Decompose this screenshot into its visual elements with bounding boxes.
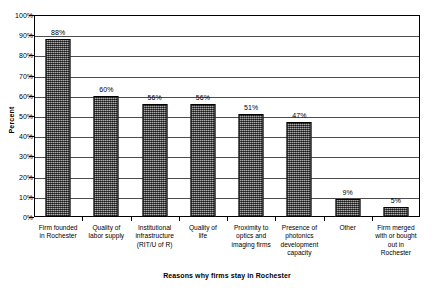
bar-value-label: 51% [244, 104, 258, 112]
x-tick-mark [179, 217, 180, 221]
bar-chart: Percent 0%10%20%30%40%50%60%70%80%90%100… [0, 0, 447, 291]
x-cat-label-line: capacity [275, 249, 323, 257]
bar-slot: 47% [275, 15, 323, 217]
x-cat-label-line: Rochester [372, 249, 420, 257]
x-cat-label-line: Quality of [179, 224, 227, 232]
x-tick-mark [372, 217, 373, 221]
x-tick-mark [82, 217, 83, 221]
bar-value-label: 9% [343, 189, 353, 197]
bar-slot: 5% [372, 15, 420, 217]
x-cat-label-line: Presence of [275, 224, 323, 232]
bar[interactable] [287, 122, 312, 217]
x-cat-label-line: optics and [227, 232, 275, 240]
bar-value-label: 60% [99, 86, 113, 94]
x-cat-label-line: (RIT/U of R) [131, 241, 179, 249]
x-axis-labels: Firm foundedin RochesterQuality oflabor … [34, 224, 420, 270]
x-cat-label: Proximity tooptics andimaging firms [227, 224, 275, 249]
x-cat-label-line: Quality of [82, 224, 130, 232]
bar-slot: 56% [131, 15, 179, 217]
bar[interactable] [46, 39, 71, 217]
bar-value-label: 47% [292, 112, 306, 120]
bars-layer: 88%60%56%56%51%47%9%5% [34, 15, 420, 217]
bar-slot: 51% [227, 15, 275, 217]
bar-slot: 88% [34, 15, 82, 217]
x-cat-label: Quality oflabor supply [82, 224, 130, 241]
bar[interactable] [190, 104, 215, 217]
x-cat-label: Firm mergedwith or boughtout inRochester [372, 224, 420, 258]
x-cat-label-line: life [179, 232, 227, 240]
x-cat-label-line: imaging firms [227, 241, 275, 249]
x-cat-label: Firm foundedin Rochester [34, 224, 82, 241]
y-axis: 0%10%20%30%40%50%60%70%80%90%100% [0, 15, 33, 217]
bar-value-label: 56% [196, 94, 210, 102]
x-tick-mark [131, 217, 132, 221]
x-cat-label: Other [324, 224, 372, 232]
x-cat-label-line: photonics [275, 232, 323, 240]
x-cat-label: Institutionalinfrastructure(RIT/U of R) [131, 224, 179, 249]
x-tick-mark [227, 217, 228, 221]
bar[interactable] [335, 199, 360, 217]
x-tick-mark [324, 217, 325, 221]
x-tick-mark [275, 217, 276, 221]
bar[interactable] [383, 207, 408, 217]
x-cat-label-line: out in [372, 241, 420, 249]
x-cat-label-line: development [275, 241, 323, 249]
x-cat-label-line: in Rochester [34, 232, 82, 240]
x-cat-label-line: Firm merged [372, 224, 420, 232]
bar-value-label: 88% [51, 29, 65, 37]
x-cat-label-line: Proximity to [227, 224, 275, 232]
x-cat-label-line: Other [324, 224, 372, 232]
bar-value-label: 56% [148, 94, 162, 102]
x-cat-label: Presence ofphotonicsdevelopmentcapacity [275, 224, 323, 258]
x-cat-label-line: with or bought [372, 232, 420, 240]
x-axis-ticks [34, 217, 420, 223]
bar-slot: 9% [324, 15, 372, 217]
x-cat-label: Quality oflife [179, 224, 227, 241]
bar[interactable] [94, 96, 119, 217]
x-cat-label-line: Institutional [131, 224, 179, 232]
x-axis-title: Reasons why firms stay in Rochester [34, 272, 420, 279]
x-cat-label-line: infrastructure [131, 232, 179, 240]
bar[interactable] [239, 114, 264, 217]
x-cat-label-line: labor supply [82, 232, 130, 240]
x-cat-label-line: Firm founded [34, 224, 82, 232]
bar-slot: 60% [82, 15, 130, 217]
bar[interactable] [142, 104, 167, 217]
bar-slot: 56% [179, 15, 227, 217]
bar-value-label: 5% [391, 197, 401, 205]
